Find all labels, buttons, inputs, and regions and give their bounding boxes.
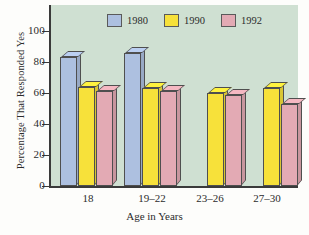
bar-1992-18: [96, 91, 113, 186]
legend-label: 1980: [127, 15, 148, 26]
bar-1992-19–22: [160, 91, 177, 186]
bar-front-face: [160, 91, 177, 186]
x-tick-label: 27–30: [232, 192, 302, 204]
bar-1980-19–22: [124, 53, 141, 186]
y-tick-label: 100: [5, 25, 45, 36]
y-tick-label: 0: [5, 180, 45, 191]
legend-swatch: [164, 14, 179, 27]
legend-swatch: [107, 14, 122, 27]
bar-front-face: [60, 57, 77, 186]
bar-front-face: [281, 104, 298, 186]
legend-swatch: [221, 14, 236, 27]
bar-front-face: [124, 53, 141, 186]
bar-front-face: [225, 95, 242, 186]
bar-front-face: [207, 93, 224, 186]
bar-front-face: [263, 88, 280, 186]
bar-front-face: [142, 88, 159, 186]
bar-1992-23–26: [225, 95, 242, 186]
chart-figure: Percentage That Responded Yes Age in Yea…: [0, 0, 309, 235]
legend-label: 1992: [241, 15, 262, 26]
bar-front-face: [78, 87, 95, 186]
bar-1992-27–30: [281, 104, 298, 186]
y-axis-line: [49, 5, 51, 188]
bar-1990-18: [78, 87, 95, 186]
bar-front-face: [96, 91, 113, 186]
y-tick-label: 40: [5, 118, 45, 129]
x-tick-label: 18: [53, 192, 123, 204]
y-tick-label: 20: [5, 149, 45, 160]
bar-1980-18: [60, 57, 77, 186]
x-axis-title: Age in Years: [0, 210, 309, 222]
y-tick-label: 60: [5, 87, 45, 98]
bar-1990-23–26: [207, 93, 224, 186]
bar-1990-19–22: [142, 88, 159, 186]
legend-item: 1992: [221, 14, 262, 27]
legend-item: 1990: [164, 14, 205, 27]
legend: 198019901992: [107, 14, 262, 27]
y-tick-label: 80: [5, 56, 45, 67]
legend-item: 1980: [107, 14, 148, 27]
legend-label: 1990: [184, 15, 205, 26]
x-axis-line: [49, 186, 298, 188]
bar-1990-27–30: [263, 88, 280, 186]
